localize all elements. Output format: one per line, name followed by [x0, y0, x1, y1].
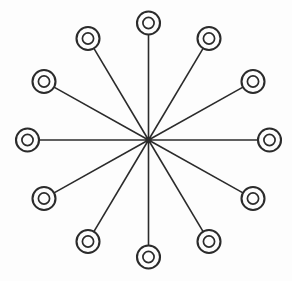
node-07-inner-ring-icon — [82, 236, 93, 247]
node-00[interactable] — [137, 12, 160, 35]
node-01[interactable] — [198, 27, 221, 50]
node-00-inner-ring-icon — [143, 17, 154, 28]
node-03-inner-ring-icon — [264, 134, 275, 145]
node-04-inner-ring-icon — [247, 193, 258, 204]
node-09[interactable] — [16, 129, 39, 152]
radial-star-diagram — [0, 0, 292, 281]
diagram-canvas: Radial star hub-and-spoke diagram — [0, 0, 292, 281]
node-10-inner-ring-icon — [38, 76, 49, 87]
node-11-inner-ring-icon — [82, 33, 93, 44]
node-09-inner-ring-icon — [22, 134, 33, 145]
node-05[interactable] — [198, 230, 221, 253]
node-08-inner-ring-icon — [38, 193, 49, 204]
node-11[interactable] — [77, 27, 100, 50]
node-10[interactable] — [33, 70, 56, 93]
node-03[interactable] — [258, 129, 281, 152]
node-01-inner-ring-icon — [203, 33, 214, 44]
node-06[interactable] — [137, 246, 160, 269]
node-02[interactable] — [242, 70, 265, 93]
center-hub-group — [145, 137, 151, 143]
center-hub[interactable] — [145, 137, 151, 143]
node-07[interactable] — [77, 230, 100, 253]
node-05-inner-ring-icon — [203, 236, 214, 247]
node-08[interactable] — [33, 187, 56, 210]
node-04[interactable] — [242, 187, 265, 210]
node-02-inner-ring-icon — [247, 76, 258, 87]
node-06-inner-ring-icon — [143, 251, 154, 262]
